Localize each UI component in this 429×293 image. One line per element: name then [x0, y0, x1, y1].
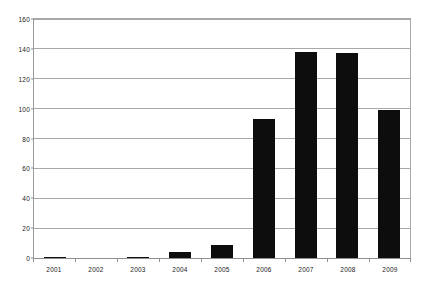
x-axis-tick-mark — [369, 258, 370, 262]
bars-container — [34, 19, 410, 258]
x-axis-label-2009: 2009 — [369, 266, 411, 274]
x-axis-tick-mark — [201, 258, 202, 262]
y-axis-tick-label: 40 — [22, 195, 34, 202]
y-axis-tick-label: 80 — [22, 135, 34, 142]
bar-slot — [243, 19, 285, 258]
bar-slot — [34, 19, 76, 258]
x-axis-tick-mark — [33, 258, 34, 262]
x-axis: 200120022003200420052006200720082009 — [33, 258, 411, 288]
bar-slot — [368, 19, 410, 258]
bar-slot — [159, 19, 201, 258]
bar-slot — [285, 19, 327, 258]
x-axis-label-2007: 2007 — [285, 266, 327, 274]
x-axis-label-2003: 2003 — [117, 266, 159, 274]
bar-2007[interactable] — [295, 52, 317, 258]
x-axis-label-2002: 2002 — [75, 266, 117, 274]
x-axis-label-2005: 2005 — [201, 266, 243, 274]
bar-slot — [118, 19, 160, 258]
x-axis-tick-mark — [327, 258, 328, 262]
x-axis-tick-mark — [159, 258, 160, 262]
x-axis-tick-mark — [75, 258, 76, 262]
bar-2008[interactable] — [336, 53, 358, 258]
y-axis-tick-label: 140 — [19, 45, 34, 52]
y-axis-tick-label: 160 — [19, 16, 34, 23]
y-axis-tick-label: 120 — [19, 75, 34, 82]
bar-slot — [76, 19, 118, 258]
x-axis-label-2001: 2001 — [33, 266, 75, 274]
x-axis-tick-mark — [410, 258, 411, 262]
bar-slot — [326, 19, 368, 258]
x-axis-label-2006: 2006 — [243, 266, 285, 274]
y-axis-tick-label: 60 — [22, 165, 34, 172]
x-axis-label-2008: 2008 — [327, 266, 369, 274]
x-axis-ticks — [33, 258, 411, 262]
x-axis-labels: 200120022003200420052006200720082009 — [33, 266, 411, 274]
x-axis-label-2004: 2004 — [159, 266, 201, 274]
bar-slot — [201, 19, 243, 258]
x-axis-tick-mark — [285, 258, 286, 262]
x-axis-tick-mark — [117, 258, 118, 262]
bar-2006[interactable] — [253, 119, 275, 258]
bar-chart: 020406080100120140160 200120022003200420… — [0, 0, 429, 293]
bar-2009[interactable] — [378, 110, 400, 258]
y-axis-tick-label: 100 — [19, 105, 34, 112]
y-axis-tick-label: 20 — [22, 225, 34, 232]
bar-2005[interactable] — [211, 245, 233, 258]
plot-area: 020406080100120140160 — [33, 18, 411, 258]
x-axis-tick-mark — [243, 258, 244, 262]
